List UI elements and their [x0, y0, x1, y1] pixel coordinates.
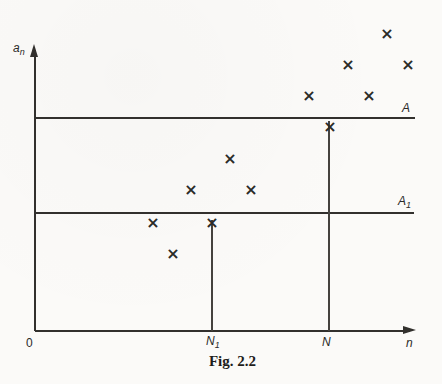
x-axis	[35, 330, 410, 332]
data-point-marker: ×	[380, 26, 393, 42]
upper-line-label: A	[402, 101, 410, 115]
data-point-marker: ×	[362, 88, 375, 104]
x-axis-arrow-icon	[403, 326, 416, 334]
x-axis-label: n	[406, 336, 413, 350]
origin-label: 0	[26, 336, 33, 350]
n-guide-line	[328, 121, 329, 331]
data-point-marker: ×	[223, 151, 236, 167]
n1-tick-label: N1	[206, 334, 220, 350]
upper-bound-line	[35, 117, 415, 120]
y-axis	[34, 50, 36, 331]
n-tick-label: N	[322, 335, 331, 349]
data-point-marker: ×	[341, 57, 354, 73]
y-axis-label: an	[13, 41, 25, 57]
data-point-marker: ×	[302, 88, 315, 104]
data-point-marker: ×	[401, 57, 414, 73]
n1-guide-line	[211, 220, 212, 331]
y-axis-arrow-icon	[30, 44, 38, 57]
lower-line-label: A1	[398, 194, 411, 210]
data-point-marker: ×	[166, 246, 179, 262]
data-point-marker: ×	[323, 119, 336, 135]
figure-caption: Fig. 2.2	[165, 353, 300, 370]
data-point-marker: ×	[244, 182, 257, 198]
lower-bound-line	[35, 212, 414, 215]
data-point-marker: ×	[205, 215, 218, 231]
figure-canvas: ×××××××××××× an A A1 0 N1 N n Fig. 2.2	[0, 0, 442, 384]
data-point-marker: ×	[146, 215, 159, 231]
data-point-marker: ×	[184, 182, 197, 198]
